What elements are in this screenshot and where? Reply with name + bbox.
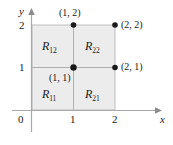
- region-subscript: 21: [92, 94, 99, 103]
- region-subscript: 22: [92, 46, 99, 55]
- y-axis-arrowhead: [28, 8, 35, 15]
- origin-tick-label: 0: [18, 114, 24, 125]
- point-label-2-2: (2, 2): [121, 20, 143, 30]
- figure-canvas: y x 0 1 2 1 2 (1, 2) (2, 2) (1, 1) (2, 1…: [0, 0, 173, 145]
- x-axis-label: x: [160, 114, 165, 125]
- x-tick-label-1: 1: [70, 114, 76, 125]
- region-subscript: 11: [49, 94, 56, 103]
- point-dot-2-2: [112, 22, 118, 28]
- y-tick-label-1: 1: [19, 62, 25, 73]
- point-dot-1-2: [71, 22, 77, 28]
- y-axis-label: y: [19, 6, 24, 17]
- point-label-1-2: (1, 2): [59, 8, 81, 18]
- x-tick-label-2: 2: [112, 114, 118, 125]
- point-label-1-1: (1, 1): [49, 73, 71, 83]
- region-label-R11: R11: [42, 88, 56, 100]
- diagram-graphics: [0, 0, 173, 145]
- region-subscript: 12: [49, 46, 56, 55]
- point-dot-2-1: [112, 65, 118, 71]
- region-label-R12: R12: [42, 40, 56, 52]
- point-label-2-1: (2, 1): [121, 62, 143, 72]
- point-dot-1-1: [70, 64, 76, 70]
- region-label-R21: R21: [85, 88, 99, 100]
- region-label-R22: R22: [85, 40, 99, 52]
- y-tick-label-2: 2: [19, 20, 25, 31]
